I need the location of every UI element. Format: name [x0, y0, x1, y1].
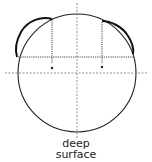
- left-bulge-arc: [16, 18, 52, 57]
- right-bulge-arc: [102, 21, 133, 54]
- left-end-dot: [51, 67, 53, 69]
- right-end-dot: [101, 66, 103, 68]
- label-surface: surface: [0, 149, 152, 160]
